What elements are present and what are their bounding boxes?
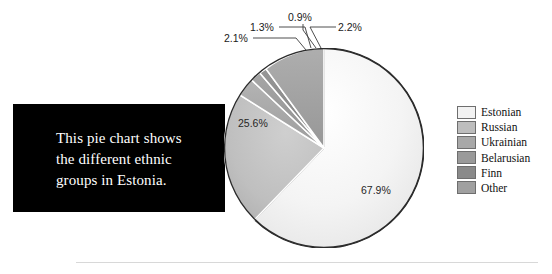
caption-box: This pie chart shows the different ethni… <box>13 104 225 212</box>
legend-label-russian: Russian <box>481 121 517 133</box>
legend-item-belarusian: Belarusian <box>457 150 530 165</box>
pie-svg <box>224 48 424 248</box>
legend-swatch-russian <box>457 121 476 134</box>
slice-label-belarusian: 1.3% <box>250 21 274 33</box>
legend-label-finn: Finn <box>481 167 502 179</box>
slice-label-estonian: 67.9% <box>361 184 391 196</box>
legend-swatch-estonian <box>457 106 476 119</box>
leader-line-belarusian <box>279 27 311 48</box>
legend-label-ukrainian: Ukrainian <box>481 136 527 148</box>
leader-line-finn <box>303 24 316 48</box>
caption-text: This pie chart shows the different ethni… <box>56 128 226 191</box>
slice-label-other: 2.2% <box>338 21 362 33</box>
legend-item-russian: Russian <box>457 120 530 135</box>
slice-label-russian: 25.6% <box>238 117 268 129</box>
legend-item-estonian: Estonian <box>457 105 530 120</box>
legend-item-other: Other <box>457 180 530 195</box>
pie-chart-figure: This pie chart shows the different ethni… <box>0 0 552 274</box>
slice-label-finn: 0.9% <box>288 11 312 23</box>
legend-swatch-other <box>457 181 476 194</box>
legend-swatch-belarusian <box>457 151 476 164</box>
legend-swatch-ukrainian <box>457 136 476 149</box>
slice-label-ukrainian: 2.1% <box>224 32 248 44</box>
legend: Estonian Russian Ukrainian Belarusian Fi… <box>457 105 530 196</box>
legend-item-ukrainian: Ukrainian <box>457 135 530 150</box>
pie-graphic <box>224 48 424 248</box>
legend-swatch-finn <box>457 166 476 179</box>
bottom-divider <box>76 262 538 263</box>
legend-label-belarusian: Belarusian <box>481 152 530 164</box>
legend-label-other: Other <box>481 182 507 194</box>
legend-label-estonian: Estonian <box>481 106 521 118</box>
leader-line-other <box>310 27 336 48</box>
legend-item-finn: Finn <box>457 165 530 180</box>
